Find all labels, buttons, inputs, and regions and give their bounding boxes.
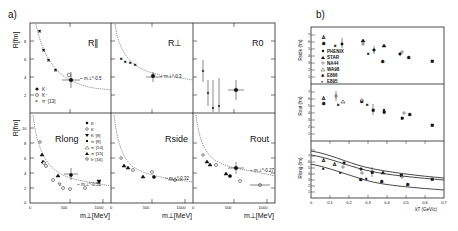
svg-text:Rside: Rside	[165, 134, 188, 144]
svg-text:500: 500	[61, 205, 68, 210]
panel-b-label: b)	[316, 9, 325, 20]
svg-text:×: ×	[47, 57, 50, 63]
svg-text:6: 6	[24, 156, 27, 161]
svg-text:0.6: 0.6	[422, 200, 428, 205]
svg-text:×: ×	[334, 43, 337, 48]
svg-text:WA98: WA98	[327, 67, 340, 72]
svg-text:~ m⊥^-0.5: ~ m⊥^-0.5	[80, 76, 102, 81]
svg-text:7: 7	[308, 33, 310, 37]
svg-text:△: △	[322, 34, 326, 39]
panel-a-ylabel-bottom: R[fm]	[12, 120, 20, 137]
svg-text:✱: ✱	[321, 73, 325, 78]
svg-text:~ m⊥^-0.27: ~ m⊥^-0.27	[250, 168, 274, 173]
svg-text:~ m⊥^-0.51: ~ m⊥^-0.51	[77, 182, 101, 187]
svg-text:×: ×	[124, 59, 127, 64]
figure: a) b) 2 4 6 8 0 2 4 6 8 10 R[	[0, 0, 458, 231]
svg-text:500: 500	[225, 205, 232, 210]
svg-text:2: 2	[24, 186, 27, 191]
svg-text:0.7: 0.7	[441, 200, 447, 205]
panel-a-xlabels: m⊥[MeV] m⊥[MeV] m⊥[MeV]	[80, 212, 274, 220]
svg-text:3: 3	[308, 178, 310, 182]
svg-text:4: 4	[24, 171, 27, 176]
svg-text:1000: 1000	[95, 205, 105, 210]
svg-text:0.2: 0.2	[346, 200, 352, 205]
panel-b-xlabel: kT (GeV/c)	[415, 207, 437, 212]
svg-text:K⁻: K⁻	[42, 93, 48, 98]
svg-text:2: 2	[308, 125, 310, 129]
svg-text:✱: ✱	[408, 112, 412, 117]
svg-text:m⊥[MeV]: m⊥[MeV]	[162, 212, 192, 220]
svg-text:NA44: NA44	[327, 61, 339, 66]
svg-text:×: ×	[120, 56, 123, 61]
svg-text:1: 1	[308, 75, 310, 79]
svg-text:0: 0	[192, 205, 195, 210]
svg-text:3: 3	[308, 61, 310, 65]
panel-b-legend: PHENIX STAR NA44 WA98 ✱E866 ×E895	[321, 49, 344, 84]
svg-text:π⁺[8]: π⁺[8]	[91, 139, 101, 144]
svg-text:500: 500	[143, 205, 150, 210]
svg-text:6: 6	[308, 40, 310, 44]
svg-text:1000: 1000	[259, 205, 269, 210]
svg-text:m⊥[MeV]: m⊥[MeV]	[244, 212, 274, 220]
svg-text:5: 5	[308, 166, 310, 170]
svg-text:Rlong: Rlong	[55, 134, 79, 144]
svg-text:π⁻[14]: π⁻[14]	[91, 145, 103, 150]
svg-text:5: 5	[308, 47, 310, 51]
svg-text:6: 6	[308, 160, 310, 164]
svg-text:E866: E866	[327, 73, 338, 78]
svg-text:0.4: 0.4	[384, 200, 390, 205]
svg-text:3: 3	[308, 118, 310, 122]
svg-text:K⁻: K⁻	[91, 127, 96, 132]
svg-text:R0: R0	[252, 38, 264, 48]
svg-text:×: ×	[38, 28, 41, 34]
panel-b-xticks: 00.10.20.30.40.50.60.7	[310, 200, 448, 205]
svg-text:2: 2	[24, 93, 27, 98]
svg-text:8: 8	[24, 141, 27, 146]
panel-a-legend-top: K⁺ K⁻ ×π⁻[13]	[35, 87, 56, 104]
panel-b-ytick-labels: 1234567 1234567 1234567	[308, 33, 310, 194]
panel-a-label: a)	[8, 9, 17, 20]
svg-text:7: 7	[308, 90, 310, 94]
svg-text:6: 6	[308, 97, 310, 101]
svg-text:π⁻[13]: π⁻[13]	[42, 99, 56, 104]
panel-b-ylabels: Rside (fm) Rout (fm) Rlong (fm)	[298, 39, 303, 178]
svg-text:0.3: 0.3	[365, 200, 371, 205]
svg-text:4: 4	[308, 111, 310, 115]
svg-text:4: 4	[308, 54, 310, 58]
panel-a-fit-curves	[33, 24, 275, 186]
panel-b-model-curves	[311, 151, 444, 190]
svg-text:Rside (fm): Rside (fm)	[298, 39, 303, 60]
svg-text:✱: ✱	[322, 101, 326, 106]
svg-text:10: 10	[22, 126, 27, 131]
svg-text:4: 4	[24, 75, 27, 80]
svg-text:1000: 1000	[177, 205, 187, 210]
svg-text:h⁻[16]: h⁻[16]	[91, 157, 102, 162]
svg-text:×: ×	[54, 67, 57, 73]
svg-text:△: △	[322, 95, 326, 100]
svg-text:6: 6	[24, 57, 27, 62]
panel-a-markers: ×××× ××××	[38, 28, 270, 191]
svg-text:×: ×	[367, 51, 370, 56]
svg-text:✱: ✱	[406, 182, 410, 187]
svg-text:~ m⊥^-0.3: ~ m⊥^-0.3	[160, 74, 182, 79]
panel-a-yticks: 2 4 6 8 0 2 4 6 8 10	[22, 39, 27, 205]
svg-text:Rout: Rout	[250, 134, 270, 144]
svg-text:✱: ✱	[407, 55, 411, 60]
svg-text:×: ×	[321, 79, 324, 84]
svg-text:5: 5	[308, 104, 310, 108]
svg-text:E895: E895	[327, 79, 338, 84]
panel-a-ylabel-top: R[fm]	[12, 32, 20, 49]
svg-text:0: 0	[310, 200, 313, 205]
svg-text:R∥: R∥	[88, 38, 100, 48]
svg-text:✱: ✱	[381, 59, 385, 64]
svg-text:π⁺[15]: π⁺[15]	[91, 151, 103, 156]
panel-a-xticks: 05001000 05001000 05001000	[29, 205, 268, 210]
svg-text:K⁺[8]: K⁺[8]	[91, 133, 100, 138]
svg-text:Rout (fm): Rout (fm)	[298, 96, 303, 115]
svg-text:K⁺: K⁺	[42, 87, 48, 92]
svg-text:m⊥[MeV]: m⊥[MeV]	[80, 212, 110, 220]
panel-a-legend-bottom: K⁺ K⁻ K⁺[8] π⁺[8] π⁻[14] π⁺[15] h⁻[16]	[85, 121, 103, 162]
svg-text:8: 8	[24, 39, 27, 44]
svg-text:0: 0	[110, 205, 113, 210]
svg-text:0.1: 0.1	[327, 200, 333, 205]
